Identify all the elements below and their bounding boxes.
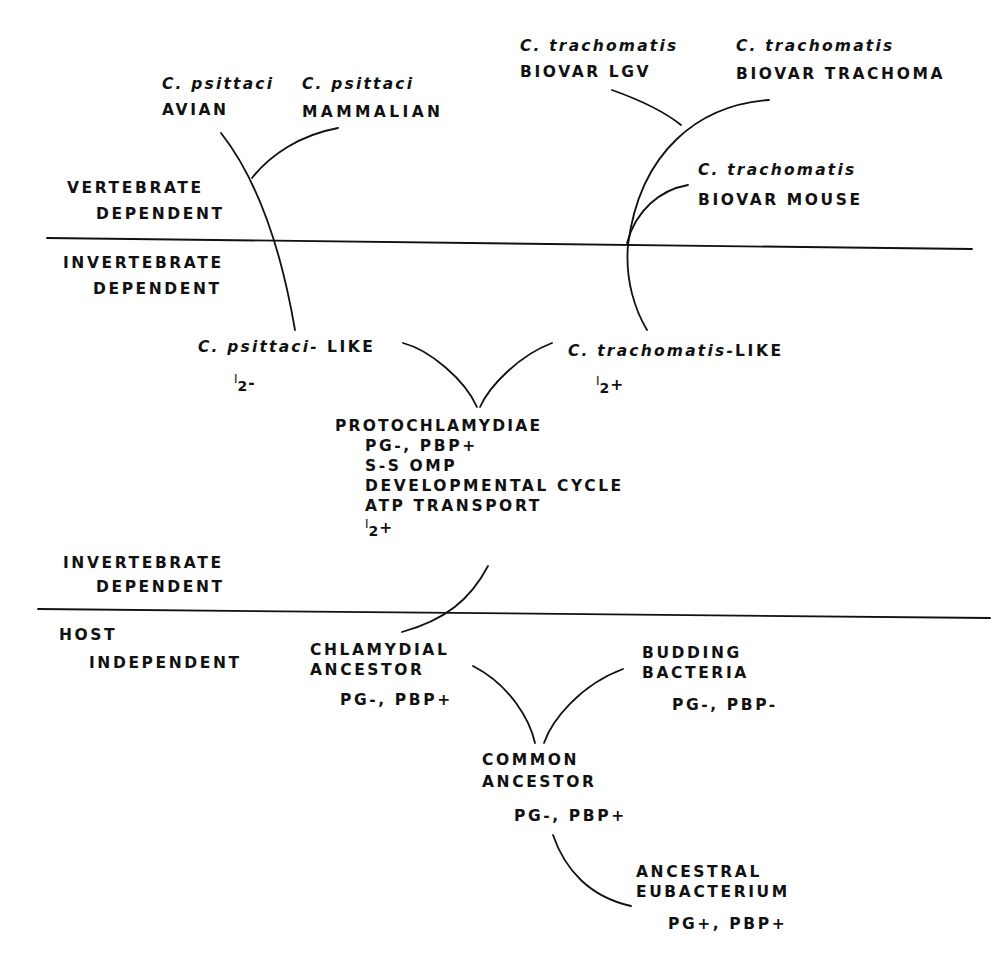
species-name: C. trachomatis- [568,342,735,360]
taxon-name-line: BUDDING [642,643,778,663]
trait-item: S-S OMP [365,456,624,476]
taxon-psittaci-avian: C. psittaci AVIAN [162,74,274,120]
zone-label-line: INVERTEBRATE [63,253,224,273]
strain-name: BIOVAR MOUSE [698,190,863,210]
branch-trachomatis-lgv [612,90,681,125]
iodine-sign: + [610,376,626,394]
zone-label-line: DEPENDENT [93,279,224,299]
taxon-name-line: ANCESTOR [310,660,453,680]
zone-label-line: DEPENDENT [96,204,225,224]
taxon-chlamydial-ancestor: CHLAMYDIAL ANCESTOR PG-, PBP+ [310,640,453,710]
iodine-staining: I2+ [365,518,624,539]
trait-item: PG-, PBP+ [365,436,624,456]
taxon-psittaci-like: C. psittaci- LIKE I2- [198,337,376,394]
taxon-name-line: EUBACTERIUM [636,882,790,902]
iodine-sign: + [379,519,395,537]
taxon-name-line: CHLAMYDIAL [310,640,453,660]
branch-trachomatis-like [480,343,552,407]
species-name: C. trachomatis [736,36,945,56]
iodine-staining: I2+ [596,375,784,396]
taxon-name: PROTOCHLAMYDIAE [335,416,624,436]
species-name: C. trachomatis [520,36,678,56]
divider-invertebrate-host-independent [38,609,990,618]
zone-label-line: HOST [59,625,242,645]
trait-list: PG-, PBP+ S-S OMP DEVELOPMENTAL CYCLE AT… [365,436,624,539]
taxon-common-ancestor: COMMON ANCESTOR PG-, PBP+ [482,750,627,826]
zone-label-invertebrate-dependent-lower: INVERTEBRATE DEPENDENT [63,553,225,597]
iodine-subscript: 2 [238,378,249,394]
divider-vertebrate-invertebrate [47,238,972,249]
taxon-name-line: ANCESTOR [482,772,627,792]
iodine-symbol: I [365,517,369,531]
branch-budding-bacteria [544,669,623,743]
taxon-trachomatis-like: C. trachomatis-LIKE I2+ [568,341,784,396]
trait-item: DEVELOPMENTAL CYCLE [365,476,624,496]
taxon-trachomatis-trachoma: C. trachomatis BIOVAR TRACHOMA [736,36,945,84]
taxon-traits: PG-, PBP+ [340,690,453,710]
species-name: C. trachomatis [698,160,863,180]
zone-label-invertebrate-dependent-upper: INVERTEBRATE DEPENDENT [63,253,224,299]
branch-psittaci-mammalian [252,128,338,178]
species-name: C. psittaci [162,74,274,94]
species-name: C. psittaci- [198,338,319,356]
taxon-trachomatis-lgv: C. trachomatis BIOVAR LGV [520,36,678,82]
branch-protochlamydiae [402,566,488,632]
zone-label-host-independent: HOST INDEPENDENT [59,625,242,673]
iodine-staining: I2- [234,373,376,394]
iodine-sign: - [248,374,257,392]
taxon-budding-bacteria: BUDDING BACTERIA PG-, PBP- [642,643,778,715]
branch-trachomatis-trachoma [627,100,769,330]
taxon-title: C. trachomatis-LIKE [568,341,784,361]
taxon-name-line: COMMON [482,750,627,770]
zone-label-line: INVERTEBRATE [63,553,225,573]
trait-item: ATP TRANSPORT [365,496,624,516]
zone-label-line: VERTEBRATE [67,178,225,198]
taxon-trachomatis-mouse: C. trachomatis BIOVAR MOUSE [698,160,863,210]
taxon-title: C. psittaci- LIKE [198,337,376,357]
iodine-subscript: 2 [369,523,380,539]
branch-ancestral-eubacterium [553,835,631,906]
iodine-subscript: 2 [600,380,611,396]
taxon-psittaci-mammalian: C. psittaci MAMMALIAN [302,74,443,122]
taxon-name-line: BACTERIA [642,663,778,683]
like-suffix: LIKE [327,338,376,356]
branch-chlamydial-ancestor [473,666,535,743]
zone-label-line: INDEPENDENT [89,653,242,673]
zone-label-line: DEPENDENT [96,577,225,597]
taxon-traits: PG+, PBP+ [668,914,790,934]
iodine-symbol: I [234,372,238,386]
taxon-traits: PG-, PBP+ [514,806,627,826]
branch-psittaci-avian [221,133,295,330]
strain-name: BIOVAR LGV [520,62,678,82]
zone-label-vertebrate-dependent: VERTEBRATE DEPENDENT [67,178,225,224]
strain-name: BIOVAR TRACHOMA [736,64,945,84]
iodine-symbol: I [596,374,600,388]
taxon-name-line: ANCESTRAL [636,862,790,882]
branch-trachomatis-mouse [627,185,688,243]
taxon-traits: PG-, PBP- [672,695,778,715]
taxon-protochlamydiae: PROTOCHLAMYDIAE PG-, PBP+ S-S OMP DEVELO… [335,416,624,539]
strain-name: MAMMALIAN [302,102,443,122]
branch-psittaci-like [403,343,477,407]
strain-name: AVIAN [162,100,274,120]
species-name: C. psittaci [302,74,443,94]
taxon-ancestral-eubacterium: ANCESTRAL EUBACTERIUM PG+, PBP+ [636,862,790,934]
like-suffix: LIKE [735,342,784,360]
